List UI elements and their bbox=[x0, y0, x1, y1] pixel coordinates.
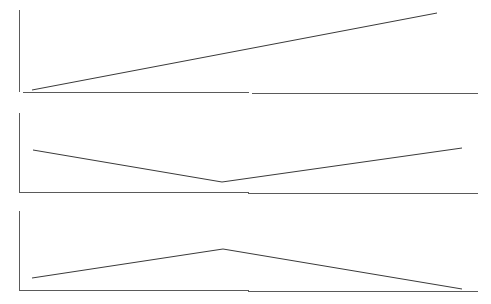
panel-2-trend-line bbox=[33, 148, 462, 182]
panel-2-x-axis bbox=[19, 192, 478, 194]
increasing-trend-panel bbox=[19, 10, 478, 94]
figure-root bbox=[0, 0, 491, 304]
figure-canvas bbox=[0, 0, 491, 304]
panel-3-trend-line bbox=[32, 249, 462, 289]
panel-1-trend-line bbox=[32, 13, 437, 90]
panel-1-x-axis bbox=[19, 92, 478, 94]
peak-trend-panel bbox=[19, 211, 478, 292]
panel-3-x-axis bbox=[19, 290, 478, 292]
v-shape-trend-panel bbox=[19, 113, 478, 194]
